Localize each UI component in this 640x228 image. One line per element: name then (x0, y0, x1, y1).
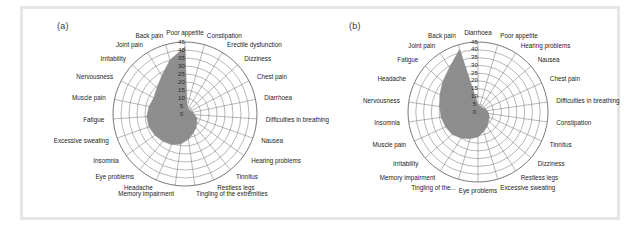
category-label-2: Erectile dysfunction (227, 41, 282, 49)
radial-tick-20: 20 (471, 76, 478, 83)
series-polygon (147, 47, 197, 145)
category-label-10: Excessive sweating (500, 184, 555, 192)
radial-tick-35: 35 (178, 54, 185, 61)
category-label-18: Headache (377, 75, 406, 82)
category-label-16: Excessive sweating (54, 137, 109, 145)
series-polygon (440, 49, 490, 139)
category-label-12: Memory impairment (118, 190, 174, 198)
category-label-21: Joint pain (116, 41, 143, 49)
category-label-0: Poor appetite (166, 29, 204, 37)
radial-tick-10: 10 (178, 94, 185, 101)
category-label-7: Nausea (261, 137, 283, 144)
category-label-17: Fatigue (83, 116, 105, 124)
category-label-12: Tingling of the... (411, 184, 456, 192)
category-label-8: Dizziness (538, 160, 565, 167)
category-label-6: Difficulties in breathing (266, 116, 330, 124)
category-label-3: Dizziness (244, 55, 271, 62)
category-label-14: Eye problems (95, 173, 134, 181)
radial-tick-25: 25 (471, 69, 478, 76)
category-label-5: Difficulties in breathing (556, 97, 620, 105)
category-label-19: Nervousness (76, 73, 113, 80)
category-label-11: Tingling of the extremities (196, 190, 268, 198)
radial-tick-30: 30 (178, 62, 185, 69)
category-label-22: Back pain (135, 32, 163, 40)
category-label-5: Diarrhoea (264, 94, 292, 101)
category-label-17: Nervousness (363, 97, 400, 104)
radar-chart-b: 051015202530354045DiarrhoeaPoor appetite… (341, 9, 640, 223)
radial-tick-30: 30 (471, 61, 478, 68)
category-label-19: Fatigue (397, 56, 419, 64)
radial-tick-20: 20 (178, 78, 185, 85)
spoke-3 (478, 66, 531, 112)
radial-tick-15: 15 (471, 84, 478, 91)
radial-tick-35: 35 (471, 53, 478, 60)
category-label-13: Memory impairment (380, 174, 436, 182)
category-label-11: Eye problems (459, 187, 498, 195)
category-label-16: Insomnia (374, 119, 400, 126)
spoke-1 (185, 45, 204, 114)
figure-radar-charts: (a) 051015202530354045Poor appetiteConst… (0, 0, 640, 228)
panel-b: (b) 051015202530354045DiarrhoeaPoor appe… (341, 9, 640, 223)
category-label-7: Tinnitus (550, 141, 572, 148)
radial-tick-45: 45 (178, 38, 185, 45)
category-label-20: Irritability (101, 55, 127, 63)
spoke-5 (185, 99, 255, 114)
spoke-3 (185, 65, 238, 114)
spoke-2 (185, 52, 222, 114)
category-label-15: Muscle pain (373, 141, 407, 149)
category-label-group: DiarrhoeaPoor appetiteHearing problemsNa… (363, 29, 620, 195)
category-label-9: Tinnitus (236, 173, 258, 180)
category-label-2: Hearing problems (521, 42, 571, 50)
category-label-1: Constipation (207, 32, 243, 40)
category-label-6: Constipation (556, 119, 592, 127)
radar-chart-a: 051015202530354045Poor appetiteConstipat… (45, 9, 345, 223)
category-label-4: Chest pain (257, 73, 288, 81)
category-label-3: Nausea (538, 56, 560, 63)
category-label-9: Restless legs (521, 174, 558, 182)
radial-tick-40: 40 (178, 46, 185, 53)
category-label-18: Muscle pain (72, 94, 106, 102)
figure-frame: (a) 051015202530354045Poor appetiteConst… (20, 6, 620, 220)
category-label-0: Diarrhoea (464, 29, 492, 36)
category-label-14: Irritability (393, 160, 419, 168)
radial-tick-10: 10 (471, 92, 478, 99)
radial-tick-40: 40 (471, 45, 478, 52)
category-label-1: Poor appetite (500, 32, 538, 40)
radial-tick-15: 15 (178, 86, 185, 93)
radial-tick-45: 45 (471, 38, 478, 45)
spoke-4 (185, 81, 249, 114)
category-label-21: Back pain (428, 32, 456, 40)
category-label-13: Headache (124, 184, 153, 191)
category-label-8: Hearing problems (251, 157, 301, 165)
category-label-20: Joint pain (408, 42, 435, 50)
panel-a: (a) 051015202530354045Poor appetiteConst… (45, 9, 345, 223)
category-label-15: Insomnia (93, 157, 119, 164)
radial-tick-25: 25 (178, 70, 185, 77)
category-label-4: Chest pain (550, 75, 581, 83)
spoke-1 (478, 45, 498, 112)
